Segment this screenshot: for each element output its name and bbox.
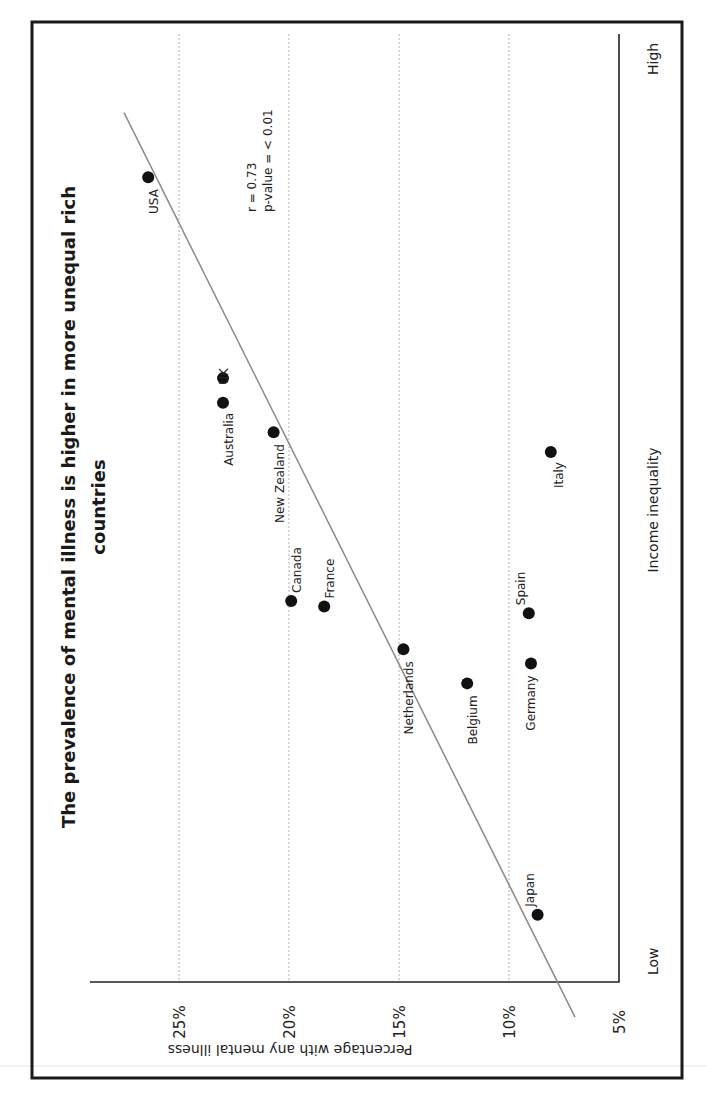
x-high-label: High	[645, 43, 661, 75]
point-marker	[525, 657, 537, 669]
point-label: UK	[217, 367, 231, 385]
point-label: Belgium	[466, 695, 480, 744]
stat-p: p-value = < 0.01	[261, 109, 275, 212]
point-label: USA	[147, 188, 161, 214]
point-marker	[217, 397, 229, 409]
point-label: New Zealand	[273, 444, 287, 523]
point-label: Canada	[290, 547, 304, 593]
x-axis-label: Income inequality	[645, 447, 661, 572]
stat-r: r = 0.73	[245, 163, 259, 212]
data-point: Netherlands	[397, 643, 416, 734]
y-axis-label: Percentage with any mental illness	[168, 1042, 413, 1058]
title-line-1: The prevalence of mental illness is high…	[58, 186, 79, 828]
data-point: Spain	[514, 572, 535, 620]
point-marker	[142, 171, 154, 183]
point-marker	[532, 909, 544, 921]
data-point: Canada	[285, 547, 304, 607]
point-marker	[523, 607, 535, 619]
data-point: Italy	[545, 446, 566, 488]
y-tick-label: 5%	[611, 1010, 629, 1034]
data-point: Belgium	[461, 677, 480, 744]
title-line-2: countries	[88, 459, 109, 554]
data-point: Japan	[523, 873, 544, 920]
chart-frame	[32, 22, 682, 1078]
point-marker	[397, 643, 409, 655]
data-point: UK	[217, 367, 231, 385]
point-marker	[268, 426, 280, 438]
data-point: USA	[142, 171, 161, 214]
y-tick-label: 15%	[391, 1005, 409, 1038]
data-point: Australia	[217, 397, 236, 466]
point-label: France	[323, 559, 337, 599]
chart-title: The prevalence of mental illness is high…	[58, 186, 109, 828]
data-points: USAUKAustraliaNew ZealandItalyCanadaFran…	[142, 171, 566, 921]
point-marker	[545, 446, 557, 458]
point-marker	[285, 595, 297, 607]
y-tick-label: 25%	[171, 1005, 189, 1038]
y-tick-labels: 5%10%15%20%25%	[171, 1005, 629, 1038]
point-marker	[318, 601, 330, 613]
point-label: Spain	[514, 572, 528, 606]
stats-annotation: r = 0.73 p-value = < 0.01	[245, 109, 275, 212]
point-label: Australia	[222, 413, 236, 466]
point-label: Netherlands	[402, 661, 416, 734]
data-point: Germany	[524, 657, 538, 730]
data-point: France	[318, 559, 337, 613]
y-tick-label: 10%	[501, 1005, 519, 1038]
y-tick-label: 20%	[281, 1005, 299, 1038]
x-low-label: Low	[645, 947, 661, 975]
point-label: Japan	[523, 873, 537, 907]
scatter-chart: 5%10%15%20%25% USAUKAustraliaNew Zealand…	[0, 0, 707, 1112]
point-label: Germany	[524, 675, 538, 730]
point-label: Italy	[552, 462, 566, 488]
trend-line	[124, 113, 575, 1017]
axes	[90, 34, 619, 982]
gridlines	[179, 34, 509, 982]
data-point: New Zealand	[268, 426, 287, 523]
point-marker	[461, 677, 473, 689]
